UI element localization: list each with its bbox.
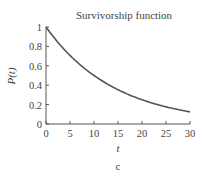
figure-caption: c bbox=[116, 160, 121, 172]
x-tick-label: 5 bbox=[67, 128, 72, 139]
x-tick-label: 15 bbox=[113, 128, 124, 139]
x-tick-label: 30 bbox=[185, 128, 196, 139]
x-tick-label: 0 bbox=[43, 128, 48, 139]
y-tick-label: 0 bbox=[37, 119, 42, 130]
y-tick-label: 0.4 bbox=[29, 80, 43, 91]
x-axis-label: t bbox=[116, 142, 120, 154]
y-tick-label: 1 bbox=[37, 22, 42, 33]
y-tick-label: 0.8 bbox=[29, 41, 42, 52]
series-line-p-t- bbox=[46, 27, 190, 112]
series-group bbox=[46, 27, 190, 112]
x-tick-label: 20 bbox=[137, 128, 148, 139]
y-tick-label: 0.2 bbox=[29, 100, 42, 111]
y-tick-label: 0.6 bbox=[29, 61, 42, 72]
chart-title: Survivorship function bbox=[76, 9, 173, 21]
survivorship-chart: Survivorship function 00.20.40.60.81 051… bbox=[0, 0, 202, 178]
x-tick-label: 25 bbox=[161, 128, 172, 139]
x-tick-label: 10 bbox=[89, 128, 100, 139]
y-axis-label: P(t) bbox=[5, 67, 18, 85]
axes bbox=[46, 27, 190, 124]
